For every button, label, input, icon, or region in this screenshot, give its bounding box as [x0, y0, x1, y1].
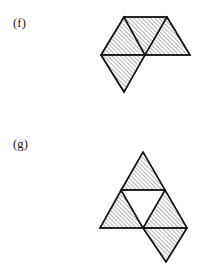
figure-g-drawing [90, 144, 198, 267]
figure-g-top-corner-triangle [121, 152, 165, 190]
figure-f-lower-left-down-triangle [101, 55, 145, 92]
figure-f-label: (f) [13, 16, 26, 30]
top-bleed-text [6, 0, 176, 5]
figure-g-label: (g) [13, 137, 28, 151]
figure-f-drawing [93, 8, 201, 102]
figure-g-hanging-down-triangle [143, 228, 187, 262]
